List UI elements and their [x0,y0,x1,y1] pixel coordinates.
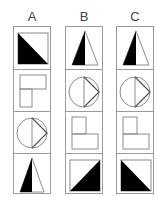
cell-c3 [117,111,153,153]
column-label-b: B [65,9,103,25]
cell-c1 [117,27,153,69]
circle-chevron-icon [66,70,102,112]
cell-b2 [66,69,102,111]
t-shape-rectangles-icon [14,70,50,112]
cell-b1 [66,27,102,69]
half-black-triangle-icon [117,27,153,69]
cell-a2 [14,69,50,111]
cell-c4 [117,153,153,195]
column-c [116,26,154,194]
column-b [65,26,103,194]
column-label-c: C [116,9,154,25]
cell-a3 [14,111,50,153]
half-black-triangle-icon [66,27,102,69]
cell-b4 [66,153,102,195]
column-a [13,26,51,194]
cell-b3 [66,111,102,153]
square-black-triangle-bottom-left-icon [14,27,50,69]
circle-chevron-icon [14,112,50,154]
cell-a4 [14,153,50,195]
l-shape-rectangles-icon [117,112,153,154]
half-black-triangle-icon [14,154,50,196]
l-shape-rectangles-icon [66,112,102,154]
cell-a1 [14,27,50,69]
column-label-a: A [13,9,51,25]
cell-c2 [117,69,153,111]
circle-chevron-icon [117,70,153,112]
square-black-triangle-bottom-left-icon [117,154,153,196]
square-black-triangle-bottom-right-icon [66,154,102,196]
